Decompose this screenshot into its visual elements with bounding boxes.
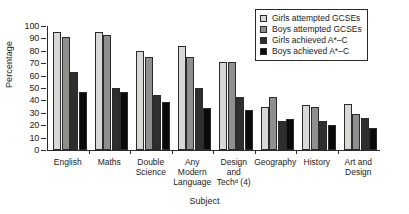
bar [62, 37, 70, 150]
bar [352, 114, 360, 150]
x-axis-title: Subject [0, 196, 409, 206]
bar [79, 92, 87, 150]
y-tick [41, 138, 46, 139]
bar [70, 72, 78, 150]
bar-group [53, 26, 87, 150]
y-tick [41, 88, 46, 89]
bar [195, 88, 203, 150]
bar [120, 92, 128, 150]
bar [178, 46, 186, 150]
bar [136, 51, 144, 150]
legend-swatch-icon [260, 15, 267, 22]
y-tick-label: 50 [29, 84, 39, 93]
bar [228, 62, 236, 150]
legend-label: Boys attempted GCSEs [272, 25, 362, 34]
y-tick-label: 0 [34, 146, 39, 155]
x-tick [255, 150, 256, 154]
legend-item: Boys achieved A*–C [260, 46, 362, 57]
x-tick [172, 150, 173, 154]
bar [328, 125, 336, 150]
x-tick [338, 150, 339, 154]
bar [162, 102, 170, 150]
bar [53, 32, 61, 150]
y-tick [41, 125, 46, 126]
bar-group [136, 26, 170, 150]
y-tick-label: 90 [29, 34, 39, 43]
bar [369, 128, 377, 150]
y-axis-title: Percentage [4, 41, 14, 88]
bar [245, 110, 253, 150]
legend-item: Girls attempted GCSEs [260, 13, 362, 24]
legend-swatch-icon [260, 37, 267, 44]
bar [103, 35, 111, 150]
y-tick-label: 70 [29, 59, 39, 68]
y-tick-label: 20 [29, 121, 39, 130]
bar [302, 105, 310, 150]
y-tick-label: 30 [29, 108, 39, 117]
y-tick [41, 76, 46, 77]
bar-chart: Percentage 0102030405060708090100 Englis… [0, 0, 409, 214]
y-tick [41, 113, 46, 114]
y-tick [41, 51, 46, 52]
bar [219, 62, 227, 150]
y-tick [41, 26, 46, 27]
legend-item: Girls achieved A*–C [260, 35, 362, 46]
bar [261, 107, 269, 150]
bar [319, 121, 327, 150]
y-tick-label: 60 [29, 71, 39, 80]
y-tick [41, 100, 46, 101]
legend: Girls attempted GCSEsBoys attempted GCSE… [255, 9, 368, 61]
bar [278, 121, 286, 150]
bar [361, 118, 369, 150]
bar [286, 119, 294, 150]
bar-group [219, 26, 253, 150]
x-tick [130, 150, 131, 154]
y-tick-label: 40 [29, 96, 39, 105]
y-tick [41, 63, 46, 64]
bar [145, 57, 153, 150]
y-tick-label: 10 [29, 133, 39, 142]
bar [112, 88, 120, 150]
y-tick-label: 80 [29, 46, 39, 55]
bar [203, 108, 211, 150]
x-category-label: Art and Design [334, 157, 384, 177]
bar [344, 104, 352, 150]
legend-label: Girls achieved A*–C [272, 36, 348, 45]
x-tick [89, 150, 90, 154]
legend-swatch-icon [260, 48, 267, 55]
bar [153, 95, 161, 150]
bar [236, 97, 244, 150]
bar [186, 57, 194, 150]
bar [95, 32, 103, 150]
y-tick-label: 100 [25, 22, 39, 31]
legend-label: Girls attempted GCSEs [272, 14, 360, 23]
bar-group [178, 26, 212, 150]
x-tick [296, 150, 297, 154]
legend-item: Boys attempted GCSEs [260, 24, 362, 35]
legend-swatch-icon [260, 26, 267, 33]
y-tick [41, 38, 46, 39]
x-tick [213, 150, 214, 154]
y-tick [41, 150, 46, 151]
bar [311, 107, 319, 150]
legend-label: Boys achieved A*–C [272, 47, 349, 56]
bar-group [95, 26, 129, 150]
bar [269, 97, 277, 150]
